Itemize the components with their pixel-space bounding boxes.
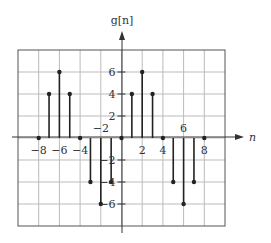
x-tick-label: 8 xyxy=(201,144,208,157)
stem-marker xyxy=(68,92,72,96)
stem-marker xyxy=(150,92,154,96)
stem-marker xyxy=(119,136,123,140)
stem xyxy=(192,138,196,184)
x-tick-label: 2 xyxy=(139,144,146,157)
y-axis-arrow-icon xyxy=(119,31,125,40)
stem-marker xyxy=(130,92,134,96)
stem xyxy=(150,92,154,138)
stem xyxy=(99,138,103,206)
stem xyxy=(202,136,206,140)
x-axis-label: n xyxy=(249,131,256,144)
y-tick-label: −4 xyxy=(99,176,115,189)
x-tick-label: −2 xyxy=(93,122,109,135)
stem-marker xyxy=(192,180,196,184)
stem-marker xyxy=(181,202,185,206)
y-tick-label: 2 xyxy=(109,110,116,123)
y-tick-label: −2 xyxy=(99,154,115,167)
stem-marker xyxy=(78,136,82,140)
stem-marker xyxy=(161,136,165,140)
stem-marker xyxy=(202,136,206,140)
stem xyxy=(161,136,165,140)
stem-plot: 642−2−4−6−8−6−4−22468 g[n] n xyxy=(0,0,271,243)
y-axis-label: g[n] xyxy=(111,14,134,27)
x-tick-label: 6 xyxy=(180,122,187,135)
x-tick-label: −4 xyxy=(72,144,88,157)
x-axis-arrow-icon xyxy=(235,134,244,140)
stem xyxy=(47,92,51,138)
x-tick-label: −8 xyxy=(31,144,47,157)
stem xyxy=(88,138,92,184)
stem xyxy=(57,70,61,138)
axes xyxy=(12,31,244,233)
y-tick-label: 4 xyxy=(109,88,116,101)
stem xyxy=(171,138,175,184)
stem-marker xyxy=(47,92,51,96)
stem-marker xyxy=(171,180,175,184)
stem-marker xyxy=(140,70,144,74)
stem xyxy=(181,138,185,206)
y-tick-label: 6 xyxy=(109,66,116,79)
stem xyxy=(119,136,123,140)
stem xyxy=(130,92,134,138)
stem-marker xyxy=(57,70,61,74)
stem-marker xyxy=(37,136,41,140)
x-tick-label: −6 xyxy=(51,144,67,157)
x-tick-label: 4 xyxy=(159,144,166,157)
stem xyxy=(68,92,72,138)
y-tick-label: −6 xyxy=(99,198,115,211)
stem xyxy=(78,136,82,140)
stem xyxy=(140,70,144,138)
stem xyxy=(37,136,41,140)
stem-marker xyxy=(88,180,92,184)
